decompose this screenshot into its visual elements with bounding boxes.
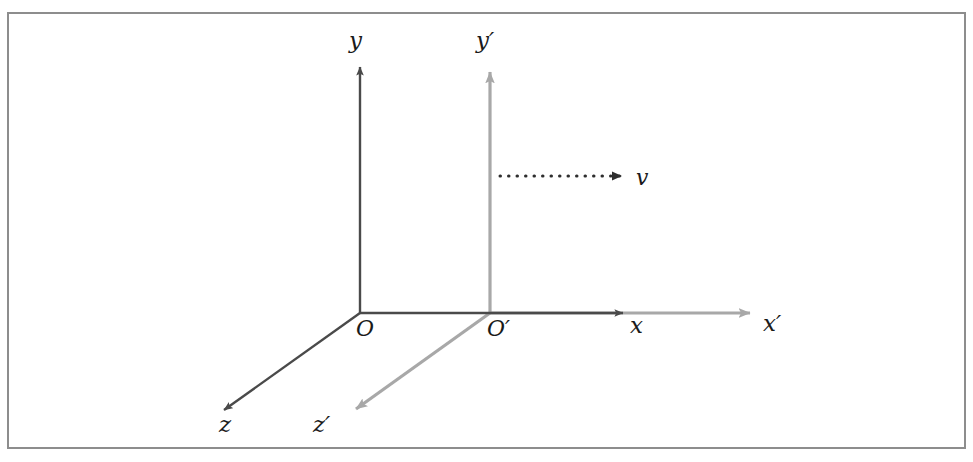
origin-label-o-prime: O′ (487, 316, 510, 341)
origin-label-o: O (356, 316, 374, 341)
x-prime-axis-label: x′ (763, 310, 782, 336)
figure-root: y x z y′ x′ z′ O O′ v (0, 0, 973, 462)
y-axis-label: y (348, 27, 363, 53)
figure-border (8, 13, 965, 448)
z-prime-axis-label: z′ (312, 411, 331, 437)
x-axis-label: x (630, 312, 643, 338)
y-prime-axis-label: y′ (475, 27, 495, 53)
primed-frame (356, 72, 750, 409)
z-axis (224, 313, 360, 410)
unprimed-frame (224, 67, 623, 410)
coordinate-frames-diagram: y x z y′ x′ z′ O O′ v (0, 0, 973, 462)
z-prime-axis (356, 313, 490, 409)
z-axis-label: z (218, 411, 232, 437)
velocity-label: v (636, 165, 649, 190)
